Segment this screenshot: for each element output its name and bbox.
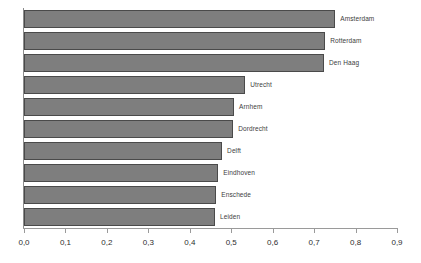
bar [24,186,216,204]
bar-category-label: Delft [227,147,241,155]
bar-row: Rotterdam [24,32,397,50]
x-axis-tick-mark [24,229,25,233]
x-axis-tick-mark [190,229,191,233]
bar-category-label: Den Haag [329,59,359,67]
x-axis-tick-label: 0,0 [18,238,29,248]
bar-row: Den Haag [24,54,397,72]
bar [24,10,335,28]
x-axis-tick-label: 0,5 [226,238,237,248]
x-axis-tick-mark [397,229,398,233]
bar [24,120,233,138]
bar [24,142,222,160]
bar-category-label: Amsterdam [340,15,374,23]
bar-row: Amsterdam [24,10,397,28]
bar [24,32,325,50]
bar-row: Dordrecht [24,120,397,138]
x-axis-tick-mark [65,229,66,233]
x-axis-tick-mark [314,229,315,233]
bar-category-label: Eindhoven [223,169,255,177]
x-axis-tick-label: 0,6 [267,238,278,248]
x-axis-tick-label: 0,1 [60,238,71,248]
x-axis-tick-label: 0,9 [391,238,402,248]
bar-chart: AmsterdamRotterdamDen HaagUtrechtArnhemD… [0,0,421,263]
bar-category-label: Rotterdam [330,37,361,45]
x-axis-tick-label: 0,2 [101,238,112,248]
x-axis-tick-mark [273,229,274,233]
bar-category-label: Enschede [221,191,251,199]
x-axis-tick-mark [148,229,149,233]
bar-row: Eindhoven [24,164,397,182]
bar-row: Delft [24,142,397,160]
x-axis-tick-label: 0,4 [184,238,195,248]
bar-row: Leiden [24,208,397,226]
bar [24,164,218,182]
x-axis-line [23,228,398,229]
x-axis-tick-mark [107,229,108,233]
x-axis-tick-mark [356,229,357,233]
x-axis-tick-mark [231,229,232,233]
bar-category-label: Arnhem [239,103,262,111]
x-axis-tick-label: 0,3 [143,238,154,248]
x-axis-tick-label: 0,7 [309,238,320,248]
bar-category-label: Utrecht [250,81,272,89]
x-axis-tick-label: 0,8 [350,238,361,248]
bar [24,76,245,94]
bar-category-label: Dordrecht [238,125,267,133]
bar [24,98,234,116]
bar [24,208,215,226]
bar-row: Arnhem [24,98,397,116]
bar-row: Enschede [24,186,397,204]
bar-category-label: Leiden [220,213,240,221]
bar [24,54,324,72]
bar-row: Utrecht [24,76,397,94]
